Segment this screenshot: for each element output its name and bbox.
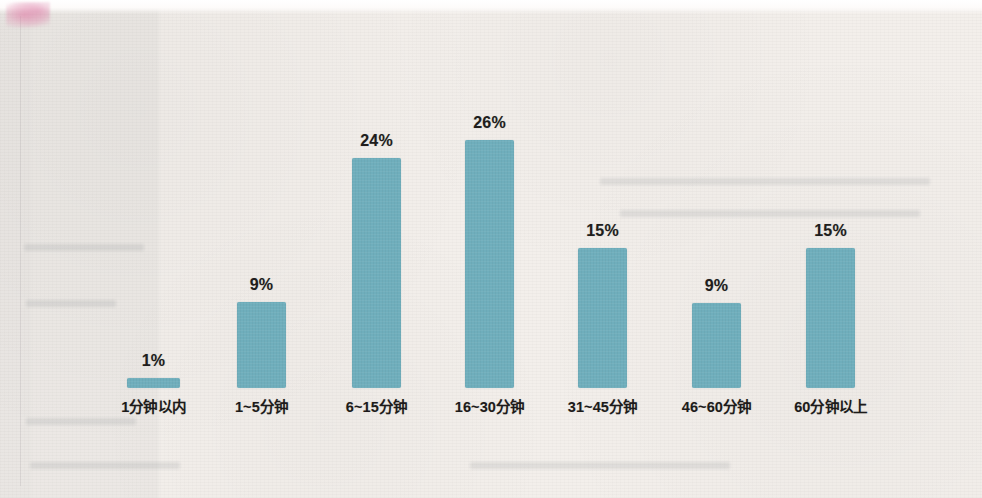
bar-value-label: 9% <box>657 277 777 295</box>
bar-value-label: 9% <box>202 276 322 294</box>
bar <box>127 378 180 388</box>
bar <box>806 248 855 388</box>
bar-value-label: 15% <box>771 222 891 240</box>
bar <box>692 303 741 388</box>
bar-value-label: 1% <box>94 352 214 370</box>
bar <box>465 140 514 388</box>
scanned-page: 1%1分钟以内9%1~5分钟24%6~15分钟26%16~30分钟15%31~4… <box>0 0 982 498</box>
bar-chart: 1%1分钟以内9%1~5分钟24%6~15分钟26%16~30分钟15%31~4… <box>0 0 982 498</box>
bar <box>578 248 627 388</box>
bar-value-label: 24% <box>317 132 437 150</box>
bar-category-label: 60分钟以上 <box>761 395 901 416</box>
bar <box>237 302 286 388</box>
bar <box>352 158 401 388</box>
bar-value-label: 26% <box>430 114 550 132</box>
bar-value-label: 15% <box>543 222 663 240</box>
